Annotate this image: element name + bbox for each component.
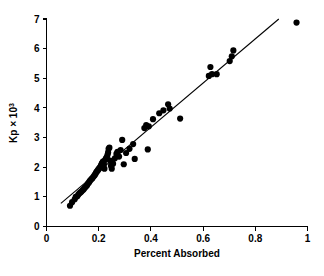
data-point [230,47,236,53]
data-point [121,161,127,167]
y-tick-label: 5 [34,73,40,84]
data-point [177,116,183,122]
x-tick-label: 0.4 [144,233,158,244]
y-tick-label: 0 [34,221,40,232]
axes [46,19,308,227]
data-point [150,116,156,122]
data-point [160,107,166,113]
y-tick-label: 3 [34,132,40,143]
data-point [116,153,122,159]
data-point [132,156,138,162]
scatter-plot: 01234567 00.20.40.60.81 Percent Absorbed… [0,0,324,276]
y-tick-label: 1 [34,191,40,202]
data-point [229,53,235,59]
data-point [214,71,220,77]
x-tick-label: 0.8 [248,233,262,244]
y-tick-label: 2 [34,162,40,173]
data-point [146,123,152,129]
chart-figure: 01234567 00.20.40.60.81 Percent Absorbed… [0,0,324,276]
y-tick-label: 6 [34,43,40,54]
data-point [118,147,124,153]
data-point [167,105,173,111]
data-point [106,145,112,151]
data-point [119,137,125,143]
x-tick-label: 1 [305,233,311,244]
data-point [130,141,136,147]
x-tick-label: 0 [44,233,50,244]
y-tick-label: 4 [34,103,40,114]
y-axis-ticks: 01234567 [34,14,47,233]
data-point [293,19,299,25]
x-axis-ticks: 00.20.40.60.81 [44,227,311,244]
data-point [145,146,151,152]
data-points [67,19,300,208]
x-axis-title: Percent Absorbed [134,248,220,259]
y-axis-title-text: Kp × 103 [8,103,20,143]
data-point [110,161,116,167]
data-point [207,64,213,70]
data-point [101,166,107,172]
x-tick-label: 0.6 [196,233,210,244]
y-tick-label: 7 [34,14,40,25]
y-axis-title: Kp × 103 [8,103,20,143]
x-axis-title-text: Percent Absorbed [134,248,220,259]
x-tick-label: 0.2 [92,233,106,244]
